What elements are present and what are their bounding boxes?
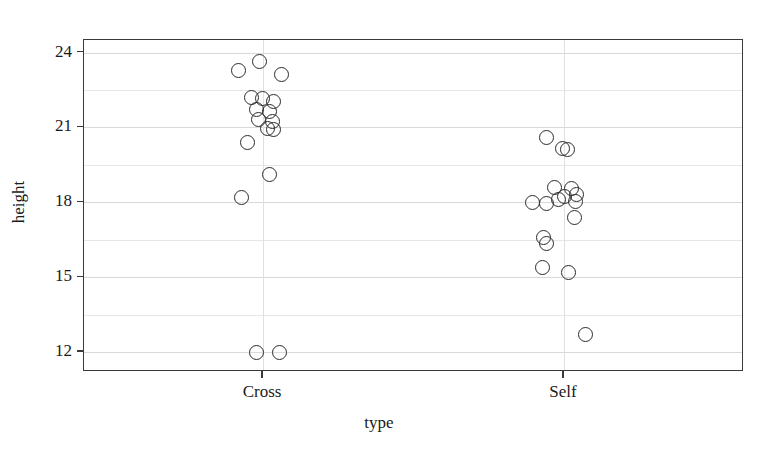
data-point-cross bbox=[262, 167, 277, 182]
data-point-self bbox=[539, 236, 554, 251]
y-axis-tick bbox=[77, 126, 83, 127]
x-axis-tick bbox=[261, 371, 262, 378]
data-point-cross bbox=[252, 54, 267, 69]
data-point-self bbox=[525, 195, 540, 210]
data-point-cross bbox=[272, 345, 287, 360]
y-axis-tick bbox=[77, 201, 83, 202]
data-point-cross bbox=[274, 67, 289, 82]
data-point-cross bbox=[240, 135, 255, 150]
data-point-cross bbox=[234, 190, 249, 205]
y-axis-tick bbox=[77, 276, 83, 277]
data-point-self bbox=[535, 260, 550, 275]
chart-figure: 1215182124 CrossSelf height type bbox=[0, 0, 758, 454]
data-point-cross bbox=[231, 63, 246, 78]
data-point-self bbox=[561, 265, 576, 280]
data-point-cross bbox=[266, 122, 281, 137]
data-point-self bbox=[560, 142, 575, 157]
y-axis-tick-label: 21 bbox=[32, 117, 72, 134]
data-point-self bbox=[567, 210, 582, 225]
y-axis-tick bbox=[77, 350, 83, 351]
data-point-self bbox=[539, 130, 554, 145]
y-axis-tick-label: 12 bbox=[32, 342, 72, 359]
data-points-layer bbox=[84, 40, 742, 370]
y-axis-tick-label: 24 bbox=[32, 43, 72, 60]
y-axis-label: height bbox=[8, 157, 30, 247]
y-axis-tick-label: 18 bbox=[32, 192, 72, 209]
data-point-self bbox=[551, 192, 566, 207]
data-point-self bbox=[568, 194, 583, 209]
data-point-self bbox=[578, 327, 593, 342]
x-axis-tick-label-self: Self bbox=[483, 381, 643, 403]
x-axis-tick bbox=[562, 371, 563, 378]
y-axis-tick-label: 15 bbox=[32, 267, 72, 284]
y-axis-tick bbox=[77, 51, 83, 52]
plot-area bbox=[83, 39, 743, 371]
data-point-cross bbox=[249, 345, 264, 360]
x-axis-label: type bbox=[0, 412, 758, 434]
x-axis-tick-label-cross: Cross bbox=[182, 381, 342, 403]
